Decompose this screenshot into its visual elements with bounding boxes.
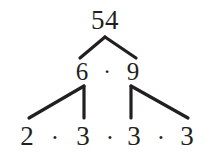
multiplication-dot-leaf-2: · <box>106 125 114 150</box>
edge-6-to-2 <box>29 86 84 118</box>
multiplication-dot-leaf-1: · <box>51 125 59 150</box>
tree-node-factor-9: 9 <box>127 59 140 84</box>
tree-node-factor-6: 6 <box>76 59 89 84</box>
multiplication-dot-leaf-3: · <box>157 125 165 150</box>
edge-54-to-9 <box>105 37 136 58</box>
tree-leaf-prime-2: 2 <box>20 123 34 150</box>
tree-leaf-prime-3-second: 3 <box>127 123 141 150</box>
tree-node-root-54: 54 <box>91 7 119 34</box>
tree-leaf-prime-3-first: 3 <box>76 123 90 150</box>
tree-leaf-prime-3-third: 3 <box>180 123 194 150</box>
multiplication-dot-middle: · <box>103 60 111 83</box>
factor-tree-diagram: 54 6 · 9 2 · 3 · 3 · 3 <box>0 0 208 155</box>
edge-54-to-6 <box>80 37 105 58</box>
edge-9-to-3-right <box>131 86 188 118</box>
